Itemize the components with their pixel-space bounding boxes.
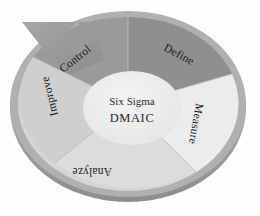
dmaic-svg: Six Sigma DMAIC Define Measure Analyze I… [0,0,260,216]
center-line-2: DMAIC [110,111,155,125]
label-analyze: Analyze [72,165,112,178]
dmaic-diagram: Six Sigma DMAIC Define Measure Analyze I… [0,0,260,216]
center-line-1: Six Sigma [109,95,155,107]
inner-circle [83,71,181,145]
